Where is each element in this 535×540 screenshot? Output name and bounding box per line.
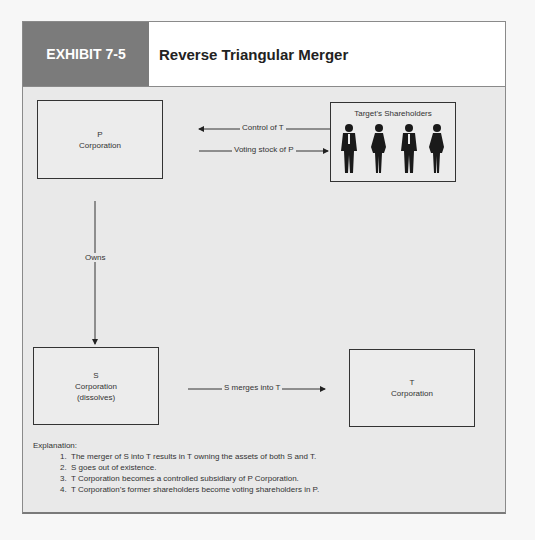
shareholders-title: Target's Shareholders [354, 108, 432, 119]
explanation-item: T Corporation’s former shareholders beco… [69, 484, 319, 495]
s-box-note: (dissolves) [77, 392, 115, 403]
p-box-letter: P [97, 129, 102, 140]
control-of-t-label: Control of T [240, 123, 286, 132]
exhibit-frame: EXHIBIT 7-5 Reverse Triangular Merger P … [22, 21, 506, 514]
s-box-name: Corporation [75, 381, 117, 392]
explanation-item: T Corporation becomes a controlled subsi… [69, 473, 319, 484]
voting-stock-label: Voting stock of P [232, 145, 296, 154]
explanation-heading: Explanation: [33, 440, 319, 451]
shareholders-box: Target's Shareholders [330, 102, 456, 182]
explanation-section: Explanation: The merger of S into T resu… [33, 440, 319, 495]
t-box-letter: T [410, 377, 415, 388]
shareholder-figures-icon [335, 122, 451, 176]
s-merges-into-t-label: S merges into T [222, 383, 282, 392]
explanation-item: S goes out of existence. [69, 462, 319, 473]
explanation-list: The merger of S into T results in T owni… [33, 451, 319, 495]
p-box-name: Corporation [79, 140, 121, 151]
s-box-letter: S [93, 370, 98, 381]
t-corporation-box: T Corporation [349, 349, 475, 427]
owns-label: Owns [83, 253, 107, 262]
p-corporation-box: P Corporation [37, 100, 163, 179]
t-box-name: Corporation [391, 388, 433, 399]
s-corporation-box: S Corporation (dissolves) [33, 347, 159, 425]
explanation-item: The merger of S into T results in T owni… [69, 451, 319, 462]
